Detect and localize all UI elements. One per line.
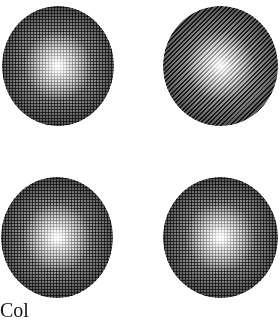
sphere-dot-screen-top-left (2, 6, 114, 126)
sphere-dot-screen-bottom-left (1, 177, 113, 298)
sphere-line-screen-top-right (163, 6, 278, 126)
sphere-dot-screen-bottom-right (163, 177, 278, 298)
figure-caption: Col (0, 300, 29, 320)
